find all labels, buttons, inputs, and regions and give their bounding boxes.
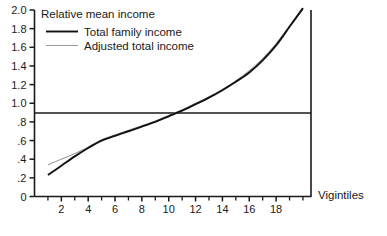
y-tick-label-4: 1.2 — [11, 79, 26, 91]
chart-screenshot: 2.01.81.61.41.21.0.8.6.4.20 246810121416… — [0, 0, 387, 236]
legend-label-adjusted-total-income: Adjusted total income — [84, 40, 194, 52]
x-axis-label: Vigintiles — [318, 189, 364, 201]
x-tick-labels: 24681012141618 — [58, 203, 282, 215]
y-tick-label-8: .4 — [17, 153, 26, 165]
y-tick-label-7: .6 — [17, 135, 26, 147]
x-tick-label-1: 4 — [85, 203, 91, 215]
x-tick-label-0: 2 — [58, 203, 64, 215]
y-tick-label-6: .8 — [17, 116, 26, 128]
y-tick-label-10: 0 — [20, 191, 26, 203]
chart-legend: Total family income Adjusted total incom… — [46, 26, 194, 52]
y-tick-label-2: 1.6 — [11, 41, 26, 53]
y-tick-label-1: 1.8 — [11, 23, 26, 35]
y-tick-label-0: 2.0 — [11, 4, 26, 16]
x-tick-label-8: 18 — [270, 203, 282, 215]
x-tick-label-6: 14 — [216, 203, 228, 215]
x-tick-label-3: 8 — [139, 203, 145, 215]
x-tick-label-5: 12 — [189, 203, 201, 215]
y-tick-label-5: 1.0 — [11, 97, 26, 109]
relative-mean-income-line-chart: 2.01.81.61.41.21.0.8.6.4.20 246810121416… — [0, 0, 387, 236]
x-tick-label-2: 6 — [112, 203, 118, 215]
legend-label-total-family-income: Total family income — [84, 26, 182, 38]
x-tick-label-7: 16 — [243, 203, 255, 215]
x-tick-label-4: 10 — [163, 203, 175, 215]
y-tick-labels: 2.01.81.61.41.21.0.8.6.4.20 — [11, 4, 26, 203]
chart-title: Relative mean income — [41, 8, 155, 20]
y-tick-label-9: .2 — [17, 172, 26, 184]
plot-axes — [35, 10, 312, 197]
y-tick-label-3: 1.4 — [11, 60, 26, 72]
